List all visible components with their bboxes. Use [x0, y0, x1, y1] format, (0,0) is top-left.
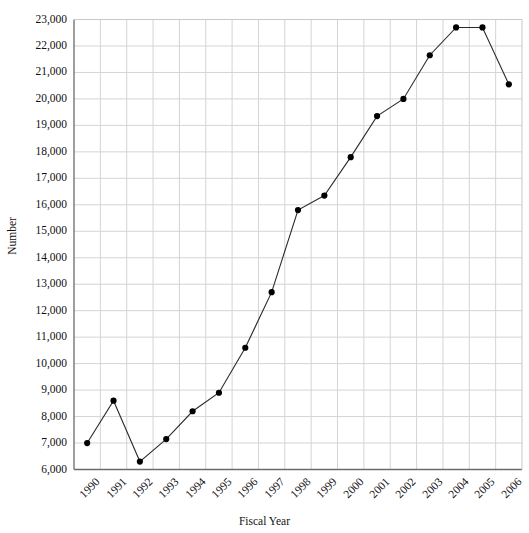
y-axis-tick-label: 6,000 [41, 464, 67, 476]
data-point-marker [479, 24, 485, 30]
y-axis-tick-label: 13,000 [35, 278, 67, 290]
data-point-marker [427, 52, 433, 58]
y-axis-title: Number [6, 217, 18, 255]
y-axis-tick-label: 16,000 [35, 199, 67, 211]
y-axis-tick-label: 22,000 [35, 40, 67, 52]
y-axis-tick-label: 23,000 [35, 14, 67, 26]
data-point-marker [295, 207, 301, 213]
y-axis-tick-label: 9,000 [41, 384, 67, 396]
horizontal-gridlines [74, 20, 522, 444]
y-axis-tick-label: 8,000 [41, 411, 67, 423]
line-chart: 6,0007,0008,0009,00010,00011,00012,00013… [0, 0, 529, 533]
data-point-marker [453, 24, 459, 30]
data-point-marker [506, 81, 512, 87]
y-axis-tick-label: 11,000 [36, 331, 67, 343]
y-axis-tick-label: 14,000 [35, 252, 67, 264]
axis-lines [74, 20, 522, 470]
y-axis-tick-label: 15,000 [35, 225, 67, 237]
y-axis-tick-label: 18,000 [35, 146, 67, 158]
data-point-marker [269, 289, 275, 295]
y-axis-tick-label: 20,000 [35, 93, 67, 105]
data-point-marker [348, 154, 354, 160]
y-axis-tick-label: 7,000 [41, 437, 67, 449]
data-point-marker [137, 458, 143, 464]
data-point-markers [84, 24, 512, 464]
data-point-marker [374, 113, 380, 119]
data-point-marker [400, 96, 406, 102]
y-axis-tick-label: 17,000 [35, 172, 67, 184]
x-axis-title: Fiscal Year [0, 515, 529, 527]
vertical-gridlines [100, 20, 495, 470]
data-point-marker [216, 390, 222, 396]
data-point-marker [110, 398, 116, 404]
y-axis-tick-label: 12,000 [35, 305, 67, 317]
data-series-line [87, 27, 509, 461]
y-axis-tick-label: 10,000 [35, 358, 67, 370]
y-axis-tick-label: 21,000 [35, 66, 67, 78]
plot-area [0, 0, 529, 533]
y-axis-tick-label: 19,000 [35, 119, 67, 131]
data-point-marker [242, 345, 248, 351]
data-point-marker [189, 408, 195, 414]
data-point-marker [321, 192, 327, 198]
data-point-marker [163, 436, 169, 442]
data-point-marker [84, 440, 90, 446]
